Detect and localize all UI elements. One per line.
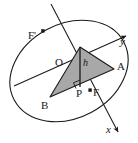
label-vertex-b: B	[41, 100, 48, 111]
label-center: O	[55, 57, 63, 68]
focus-left-marker	[41, 29, 44, 32]
label-focus-right: F	[93, 87, 99, 98]
label-axis-y: y	[120, 36, 125, 47]
label-vertex-a: A	[117, 61, 125, 72]
geometry-figure: F' O h A B P F y x	[0, 0, 138, 143]
focus-right-marker	[88, 88, 91, 91]
label-height: h	[83, 57, 88, 68]
label-axis-x: x	[106, 124, 111, 135]
label-foot-point: P	[76, 88, 82, 99]
label-focus-left: F'	[28, 30, 36, 41]
